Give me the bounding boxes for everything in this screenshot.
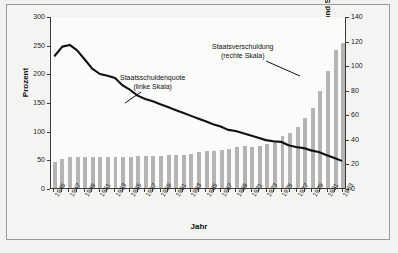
x-tick-mark bbox=[319, 189, 320, 192]
x-tick-mark bbox=[76, 189, 77, 192]
annotation-quote-line2: (linke Skala) bbox=[120, 82, 185, 91]
x-tick-mark bbox=[122, 189, 123, 192]
y-tick-mark-left bbox=[47, 74, 50, 75]
y-tick-mark-right bbox=[346, 42, 349, 43]
chart-figure: Prozent Milliarden Pfund Serling Jahr 05… bbox=[0, 0, 398, 253]
line-series-staatsschuldenquote bbox=[51, 17, 345, 188]
y-tick-label-left: 100 bbox=[19, 128, 45, 136]
x-tick-mark bbox=[137, 189, 138, 192]
y-tick-mark-left bbox=[47, 189, 50, 190]
y-tick-mark-left bbox=[47, 17, 50, 18]
x-tick-mark bbox=[182, 189, 183, 192]
y-tick-label-right: 60 bbox=[351, 111, 377, 119]
x-tick-mark bbox=[213, 189, 214, 192]
y-tick-mark-right bbox=[346, 115, 349, 116]
x-tick-mark bbox=[243, 189, 244, 192]
y-tick-mark-right bbox=[346, 91, 349, 92]
x-tick-mark bbox=[228, 189, 229, 192]
y-tick-label-left: 250 bbox=[19, 42, 45, 50]
x-tick-mark bbox=[334, 189, 335, 192]
y-tick-mark-left bbox=[47, 160, 50, 161]
annotation-schuld-line1: Staatsverschuldung bbox=[212, 43, 273, 50]
y-tick-label-right: 100 bbox=[351, 62, 377, 70]
y-tick-label-left: 0 bbox=[19, 185, 45, 193]
plot-area bbox=[50, 17, 346, 189]
y-tick-mark-left bbox=[47, 103, 50, 104]
x-tick-mark bbox=[91, 189, 92, 192]
y-tick-label-left: 150 bbox=[19, 99, 45, 107]
x-tick-mark bbox=[258, 189, 259, 192]
y-tick-mark-right bbox=[346, 164, 349, 165]
y-tick-mark-right bbox=[346, 66, 349, 67]
y-tick-label-right: 40 bbox=[351, 136, 377, 144]
x-tick-mark bbox=[167, 189, 168, 192]
annotation-quote-line1: Staatsschuldenquote bbox=[120, 74, 185, 81]
y-tick-label-right: 20 bbox=[351, 160, 377, 168]
x-tick-mark bbox=[289, 189, 290, 192]
y-tick-label-right: 0 bbox=[351, 185, 377, 193]
y-tick-mark-left bbox=[47, 132, 50, 133]
x-axis-title: Jahr bbox=[0, 222, 398, 231]
annotation-schuld-line2: (rechte Skala) bbox=[212, 51, 273, 60]
annotation-staatsverschuldung: Staatsverschuldung (rechte Skala) bbox=[212, 42, 273, 60]
x-tick-mark bbox=[106, 189, 107, 192]
y-tick-label-right: 80 bbox=[351, 87, 377, 95]
x-tick-mark bbox=[61, 189, 62, 192]
x-tick-mark bbox=[152, 189, 153, 192]
annotation-staatsschuldenquote: Staatsschuldenquote (linke Skala) bbox=[120, 73, 185, 91]
y-tick-mark-right bbox=[346, 140, 349, 141]
x-tick-mark bbox=[273, 189, 274, 192]
x-tick-mark bbox=[304, 189, 305, 192]
y-tick-label-left: 200 bbox=[19, 70, 45, 78]
x-tick-mark bbox=[198, 189, 199, 192]
y-tick-mark-right bbox=[346, 17, 349, 18]
y-tick-label-right: 140 bbox=[351, 13, 377, 21]
y-tick-label-left: 50 bbox=[19, 156, 45, 164]
y-tick-label-right: 120 bbox=[351, 38, 377, 46]
y-tick-mark-left bbox=[47, 46, 50, 47]
y-tick-label-left: 300 bbox=[19, 13, 45, 21]
